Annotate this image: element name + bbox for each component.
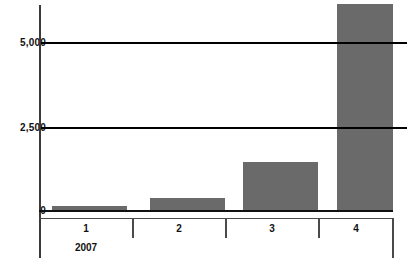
gridline-2500	[39, 127, 393, 129]
right-tick-5000	[391, 42, 407, 44]
bar-category-4	[337, 4, 393, 211]
bar-chart: 5,000 2,500 0 1 2007 2 3 4	[0, 0, 416, 259]
x-axis-label-category-2: 2	[134, 224, 224, 234]
x-axis-line	[39, 210, 393, 212]
gridline-5000	[39, 42, 393, 44]
x-axis-label-category-3: 3	[227, 224, 317, 234]
plot-area	[0, 0, 416, 212]
x-axis-label-category-1: 1	[41, 224, 131, 234]
x-axis-label-category-4: 4	[320, 224, 392, 234]
category-band-top-line	[39, 218, 393, 219]
y-axis-line	[39, 5, 41, 258]
bar-category-3	[243, 162, 318, 211]
plot-right-edge	[392, 218, 394, 258]
x-axis-sublabel-year: 2007	[41, 243, 131, 253]
right-tick-2500	[391, 127, 407, 129]
